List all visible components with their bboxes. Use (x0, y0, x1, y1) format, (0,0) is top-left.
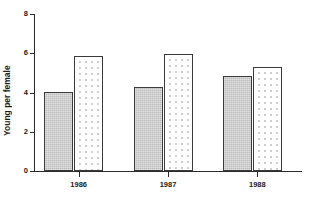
y-tick-mark (30, 132, 35, 133)
bar (44, 92, 73, 171)
x-tick-label: 1986 (70, 181, 87, 189)
bar-chart: Young per female 02468 198619871988 (0, 0, 312, 209)
x-tick-mark (79, 172, 80, 177)
y-tick-label: 6 (24, 50, 28, 58)
x-tick-mark (168, 172, 169, 177)
plot-area: 02468 198619871988 (34, 14, 302, 172)
y-tick-mark (30, 14, 35, 15)
bar (253, 67, 282, 171)
y-tick-mark (30, 93, 35, 94)
y-tick: 6 (34, 53, 35, 54)
y-tick: 2 (34, 132, 35, 133)
x-tick-label: 1987 (160, 181, 177, 189)
bar (223, 76, 252, 171)
y-tick-label: 8 (24, 10, 28, 18)
y-tick: 4 (34, 93, 35, 94)
x-tick-mark (257, 172, 258, 177)
bar (74, 56, 103, 171)
y-tick-mark (30, 171, 35, 172)
y-tick-mark (30, 53, 35, 54)
y-tick-label: 0 (24, 167, 28, 175)
y-axis-title: Young per female (0, 36, 14, 166)
y-tick: 0 (34, 171, 35, 172)
y-tick: 8 (34, 14, 35, 15)
x-tick-label: 1988 (249, 181, 266, 189)
y-tick-label: 2 (24, 128, 28, 136)
bar (164, 54, 193, 171)
bar (134, 87, 163, 171)
y-tick-label: 4 (24, 89, 28, 97)
